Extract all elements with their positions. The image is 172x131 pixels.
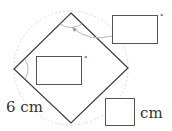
left-angle-arc — [25, 59, 28, 79]
top-angle-answer-box[interactable] — [112, 15, 158, 44]
degree-unit: ° — [84, 56, 88, 63]
side-length-label: 6 cm — [6, 100, 43, 115]
left-angle-answer-box[interactable] — [36, 56, 82, 85]
length-answer-box[interactable] — [105, 98, 135, 126]
cm-unit: cm — [140, 106, 163, 121]
degree-unit: ° — [160, 14, 164, 21]
top-angle-arc — [60, 24, 82, 28]
